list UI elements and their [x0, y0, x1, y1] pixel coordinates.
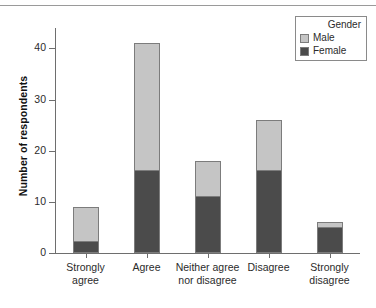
- x-axis-tick: [208, 253, 209, 258]
- bar-segment-male: [257, 121, 281, 171]
- x-axis-tick: [269, 253, 270, 258]
- bar-segment-female: [74, 242, 98, 252]
- y-axis-tick-label: 20: [20, 145, 46, 155]
- legend-label-female: Female: [313, 45, 346, 57]
- y-axis-tick-label: 10: [20, 196, 46, 206]
- x-axis-tick: [330, 253, 331, 258]
- figure-top-rule: [0, 5, 376, 6]
- y-axis-tick-label: 40: [20, 42, 46, 52]
- x-axis-tick: [147, 253, 148, 258]
- bar-segment-female: [318, 228, 342, 252]
- legend-label-male: Male: [313, 32, 335, 44]
- bar-segment-male: [196, 162, 220, 197]
- bar-1: [134, 43, 160, 253]
- bar-segment-female: [196, 197, 220, 252]
- legend: Gender Male Female: [295, 16, 367, 61]
- legend-swatch-female-icon: [300, 47, 309, 56]
- chart-figure: Number of respondents 010203040 Strongly…: [0, 0, 376, 308]
- bar-segment-female: [257, 171, 281, 252]
- x-axis-tick: [86, 253, 87, 258]
- bar-segment-male: [135, 44, 159, 171]
- x-axis-category-label: Strongly disagree: [291, 261, 369, 286]
- bar-2: [195, 161, 221, 253]
- y-axis-tick-label: 30: [20, 94, 46, 104]
- bar-segment-male: [74, 208, 98, 242]
- plot-area: [55, 28, 360, 253]
- y-axis-tick-label: 0: [20, 247, 46, 257]
- y-axis-tick: [49, 253, 55, 254]
- legend-swatch-male-icon: [300, 34, 309, 43]
- legend-item-female: Female: [300, 45, 362, 57]
- bar-3: [256, 120, 282, 253]
- legend-item-male: Male: [300, 32, 362, 44]
- bar-4: [317, 222, 343, 253]
- bar-0: [73, 207, 99, 253]
- bar-segment-female: [135, 171, 159, 252]
- legend-title: Gender: [300, 19, 362, 31]
